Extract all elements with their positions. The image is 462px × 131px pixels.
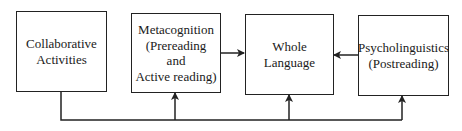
node-label-line: Active reading) <box>135 69 216 85</box>
node-collaborative-activities: Collaborative Activities <box>16 11 107 92</box>
node-label-line: and <box>167 53 186 69</box>
feedback-bus-line <box>61 91 402 120</box>
node-whole-language: Whole Language <box>245 14 334 95</box>
node-metacognition: Metacognition (Prereading and Active rea… <box>131 13 221 93</box>
node-psycholinguistics: Psycholinguistics (Postreading) <box>358 15 449 96</box>
node-label-line: (Prereading <box>146 38 207 54</box>
node-label-line: Collaborative <box>26 36 97 52</box>
node-label-line: (Postreading) <box>368 56 438 72</box>
node-label-line: Psycholinguistics <box>358 40 449 56</box>
node-label-line: Activities <box>36 52 87 68</box>
node-label-line: Metacognition <box>138 22 214 38</box>
node-label-line: Language <box>264 55 315 71</box>
node-label-line: Whole <box>272 39 307 55</box>
